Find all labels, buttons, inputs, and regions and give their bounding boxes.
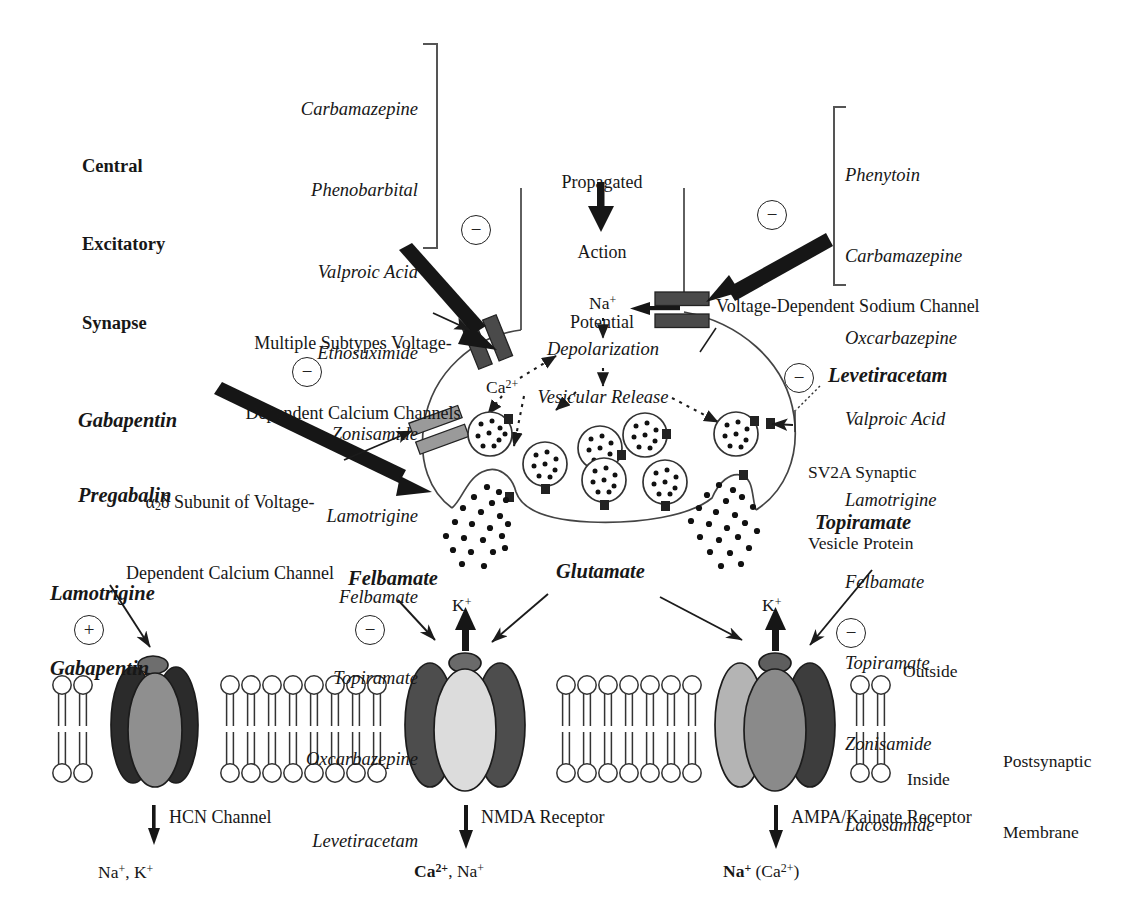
drug-item: Topiramate xyxy=(203,665,418,692)
drug-item: Phenobarbital xyxy=(203,177,418,204)
figure-title-line-2: Excitatory xyxy=(82,231,165,257)
arrow-sodium-blockers xyxy=(706,233,833,302)
receptor-name-hcn: HCN Channel xyxy=(169,806,272,829)
drug-item: Oxcarbazepine xyxy=(203,746,418,773)
drug-item: Carbamazepine xyxy=(845,243,1065,270)
sodium-channel-label: Voltage-Dependent Sodium Channel xyxy=(716,295,980,318)
minus-sign-calcium-blockers: − xyxy=(461,215,491,245)
drug-list-bracket-left xyxy=(423,44,437,248)
minus-sign-sodium-blockers: − xyxy=(757,200,787,230)
vesicular-release-label: Vesicular Release xyxy=(528,386,678,409)
ampa-kainate-receptor-protein xyxy=(715,653,835,791)
outside-label: Outside xyxy=(903,660,957,684)
sv2a-protein-label: SV2A Synaptic Vesicle Protein xyxy=(808,413,916,603)
minus-sign-topiramate: − xyxy=(836,618,866,648)
figure-title: Central Excitatory Synapse xyxy=(82,100,165,389)
minus-sign-levetiracetam: − xyxy=(784,363,814,393)
receptor-name-ampa: AMPA/Kainate Receptor xyxy=(791,806,972,829)
potassium-ion-label-nmda: K+ xyxy=(452,595,471,616)
figure-canvas: Central Excitatory Synapse Carbamazepine… xyxy=(0,0,1141,910)
figure-title-line-3: Synapse xyxy=(82,310,165,336)
potassium-ion-label-ampa: K+ xyxy=(762,595,781,616)
postsynaptic-membrane-label: Postsynaptic Membrane xyxy=(1003,702,1091,892)
drug-label: Gabapentin xyxy=(50,656,155,681)
sodium-ion-label-terminal: Na+ xyxy=(589,293,616,314)
receptor-name-nmda: NMDA Receptor xyxy=(481,806,604,829)
plus-sign-lamotrigine: + xyxy=(74,615,104,645)
inside-label: Inside xyxy=(907,768,950,792)
permeant-ions-nmda: Ca2+, Na+ xyxy=(414,861,484,882)
neurotransmitter-label: Glutamate xyxy=(556,559,645,584)
synaptic-vesicles xyxy=(468,412,759,511)
drug-label: Lamotrigine xyxy=(50,581,155,606)
drug-item: Oxcarbazepine xyxy=(845,325,1065,352)
callout-felbamate: Felbamate xyxy=(348,566,438,591)
depolarization-label: Depolarization xyxy=(531,338,675,361)
callout-topiramate: Topiramate xyxy=(815,510,911,535)
callout-levetiracetam: Levetiracetam xyxy=(828,363,948,388)
nmda-receptor-protein xyxy=(405,653,525,791)
drug-item: Valproic Acid xyxy=(203,259,418,286)
drug-item: Phenytoin xyxy=(845,162,1065,189)
drug-item: Carbamazepine xyxy=(203,96,418,123)
drug-label: Gabapentin xyxy=(78,408,177,433)
permeant-ions-ampa: Na+ (Ca2+) xyxy=(723,861,799,882)
calcium-ion-label-terminal: Ca2+ xyxy=(486,377,518,398)
drug-item: Levetiracetam xyxy=(203,828,418,855)
minus-sign-gabapentin: − xyxy=(292,357,322,387)
minus-sign-felbamate: − xyxy=(355,615,385,645)
figure-title-line-1: Central xyxy=(82,153,165,179)
permeant-ions-hcn: Na+, K+ xyxy=(98,862,153,883)
